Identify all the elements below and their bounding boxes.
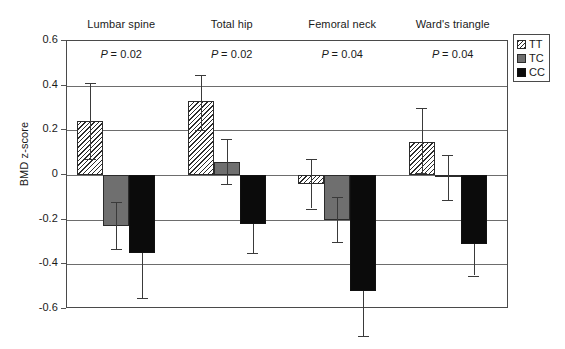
bar-cc-lumbar-spine: [129, 175, 155, 253]
error-bar-cap-top: [442, 155, 453, 156]
gridline: [67, 264, 507, 265]
y-tick-mark: [61, 308, 66, 309]
group-title: Femoral neck: [287, 18, 398, 30]
legend: TTTCCC: [513, 34, 550, 82]
bmd-zscore-bar-chart: BMD z-score 0.60.40.20-0.2-0.4-0.6 Lumba…: [0, 0, 565, 349]
y-tick-label: 0: [18, 168, 58, 179]
y-tick-label: 0.4: [18, 79, 58, 90]
error-bar-cap-bottom: [468, 276, 479, 277]
error-bar-line: [116, 202, 117, 249]
error-bar-cap-bottom: [221, 184, 232, 185]
y-tick-label: -0.2: [18, 213, 58, 224]
y-tick-label: -0.6: [18, 302, 58, 313]
error-bar-line: [363, 291, 364, 336]
error-bar-cap-bottom: [306, 209, 317, 210]
y-tick-label: -0.4: [18, 257, 58, 268]
legend-item-tc: TC: [517, 51, 545, 65]
error-bar-cap-bottom: [111, 249, 122, 250]
error-bar-line: [337, 197, 338, 242]
error-bar-line: [422, 108, 423, 173]
legend-swatch-cc-icon: [517, 68, 526, 77]
legend-label: TT: [529, 38, 542, 50]
y-tick-label: 0.6: [18, 34, 58, 45]
bar-cc-femoral-neck: [350, 175, 376, 291]
error-bar-cap-top: [332, 197, 343, 198]
legend-swatch-tc-icon: [517, 54, 526, 63]
y-axis-title: BMD z-score: [18, 94, 30, 214]
error-bar-line: [311, 159, 312, 208]
legend-item-tt: TT: [517, 37, 545, 51]
error-bar-cap-top: [306, 159, 317, 160]
legend-label: TC: [529, 52, 544, 64]
group-title: Total hip: [177, 18, 288, 30]
error-bar-cap-bottom: [195, 130, 206, 131]
error-bar-cap-top: [221, 139, 232, 140]
error-bar-line: [142, 253, 143, 298]
error-bar-cap-bottom: [85, 159, 96, 160]
legend-item-cc: CC: [517, 65, 545, 79]
plot-area: [66, 40, 508, 308]
legend-label: CC: [529, 66, 545, 78]
error-bar-line: [227, 139, 228, 184]
error-bar-line: [201, 75, 202, 131]
gridline: [67, 86, 507, 87]
error-bar-cap-bottom: [247, 253, 258, 254]
gridline: [67, 130, 507, 131]
error-bar-line: [474, 244, 475, 275]
error-bar-line: [253, 224, 254, 253]
bar-cc-ward-s-triangle: [461, 175, 487, 244]
error-bar-cap-bottom: [332, 242, 343, 243]
legend-swatch-tt-icon: [517, 40, 526, 49]
error-bar-cap-bottom: [137, 298, 148, 299]
error-bar-cap-bottom: [416, 173, 427, 174]
error-bar-cap-bottom: [358, 336, 369, 337]
y-tick-label: 0.2: [18, 123, 58, 134]
group-title: Ward's triangle: [398, 18, 509, 30]
error-bar-cap-top: [111, 202, 122, 203]
error-bar-cap-bottom: [442, 200, 453, 201]
error-bar-line: [90, 83, 91, 159]
bar-cc-total-hip: [240, 175, 266, 224]
group-title: Lumbar spine: [66, 18, 177, 30]
error-bar-line: [448, 155, 449, 200]
error-bar-cap-top: [85, 83, 96, 84]
error-bar-cap-top: [416, 108, 427, 109]
error-bar-cap-top: [195, 75, 206, 76]
